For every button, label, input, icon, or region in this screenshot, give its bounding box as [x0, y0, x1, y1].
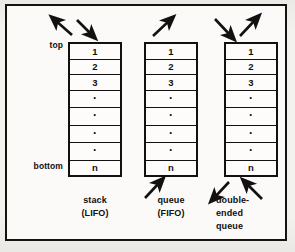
queue-cell-6: · [146, 126, 196, 144]
stack-cell-7: · [70, 143, 120, 161]
queue-cell-5: · [146, 108, 196, 126]
stack-column: 1 2 3 · · · · n [68, 42, 122, 177]
stack-caption-line-1: stack [65, 194, 125, 207]
stack-caption: stack (LIFO) [65, 194, 125, 220]
queue-caption-line-1: queue [141, 194, 201, 207]
stack-cell-5: · [70, 108, 120, 126]
deque-cell-2: 2 [226, 60, 276, 76]
queue-cell-3: 3 [146, 75, 196, 91]
stack-cell-3: 3 [70, 75, 120, 91]
deque-cell-1: 1 [226, 44, 276, 60]
deque-cell-4: · [226, 91, 276, 109]
queue-caption: queue (FIFO) [141, 194, 201, 220]
queue-cell-n: n [146, 161, 196, 176]
stack-cell-1: 1 [70, 44, 120, 60]
deque-caption-line-1: double- [216, 194, 278, 207]
deque-top-out-arrow [240, 19, 256, 36]
queue-cell-1: 1 [146, 44, 196, 60]
deque-caption-line-3: queue [216, 220, 278, 233]
row-label-top: top [9, 40, 63, 50]
deque-cell-n: n [226, 161, 276, 176]
row-label-bottom: bottom [9, 161, 63, 171]
stack-cell-4: · [70, 91, 120, 109]
deque-top-in-arrow [215, 19, 231, 36]
stack-cell-6: · [70, 126, 120, 144]
deque-caption-line-2: ended [216, 207, 278, 220]
deque-column: 1 2 3 · · · · n [224, 42, 278, 177]
deque-cell-3: 3 [226, 75, 276, 91]
deque-caption: double- ended queue [216, 194, 278, 233]
queue-caption-line-2: (FIFO) [141, 207, 201, 220]
deque-cell-7: · [226, 143, 276, 161]
deque-cell-5: · [226, 108, 276, 126]
stack-caption-line-2: (LIFO) [65, 207, 125, 220]
deque-cell-6: · [226, 126, 276, 144]
stack-cell-2: 2 [70, 60, 120, 76]
queue-cell-7: · [146, 143, 196, 161]
stack-push-arrow [77, 20, 92, 35]
diagram-figure: top bottom 1 2 3 · · · · n 1 2 3 · · · ·… [0, 0, 295, 252]
stack-pop-arrow [55, 20, 72, 35]
diagram-frame: top bottom 1 2 3 · · · · n 1 2 3 · · · ·… [5, 4, 287, 241]
queue-dequeue-arrow [153, 20, 170, 36]
queue-column: 1 2 3 · · · · n [144, 42, 198, 177]
queue-cell-2: 2 [146, 60, 196, 76]
queue-cell-4: · [146, 91, 196, 109]
stack-cell-n: n [70, 161, 120, 176]
